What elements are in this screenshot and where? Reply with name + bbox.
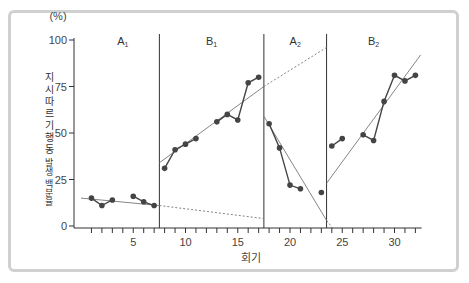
data-line-B1	[165, 139, 196, 169]
x-tick-label: 15	[232, 236, 244, 248]
data-line-B2	[363, 75, 415, 140]
data-point	[130, 193, 136, 199]
y-tick-label: 75	[55, 81, 67, 93]
x-tick-label: 30	[388, 236, 400, 248]
x-axis-label: 회기	[241, 252, 261, 264]
trend-line-B1-projection	[264, 47, 327, 86]
y-tick-label: 100	[49, 34, 67, 46]
data-line-A2	[269, 124, 300, 189]
trend-line-B2	[327, 55, 421, 183]
data-point	[371, 138, 377, 144]
data-point	[225, 112, 231, 118]
data-point	[151, 203, 157, 209]
data-point	[245, 80, 251, 86]
data-point	[413, 73, 419, 79]
chart-plot: 0255075100(%)51015202530회기A1B1A2B2	[0, 0, 469, 283]
data-point	[266, 121, 272, 127]
data-point	[319, 190, 325, 196]
data-point	[193, 136, 199, 142]
data-point	[99, 203, 105, 209]
data-line-B1	[217, 77, 259, 122]
trend-line-A1-projection	[159, 206, 264, 219]
y-tick-label: 25	[55, 174, 67, 186]
x-tick-label: 5	[130, 236, 136, 248]
data-point	[277, 145, 283, 151]
data-point	[329, 143, 335, 149]
data-point	[214, 119, 220, 125]
data-point	[381, 99, 387, 105]
data-point	[141, 199, 147, 205]
y-unit-label: (%)	[49, 10, 66, 22]
phase-label-A2: A2	[290, 35, 301, 48]
phase-label-B1: B1	[206, 35, 217, 48]
data-point	[183, 141, 189, 147]
x-tick-label: 20	[284, 236, 296, 248]
data-point	[256, 74, 262, 80]
phase-label-B2: B2	[368, 35, 379, 48]
x-tick-label: 10	[179, 236, 191, 248]
data-point	[360, 132, 366, 138]
data-point	[339, 136, 345, 142]
data-point	[287, 182, 293, 188]
x-tick-label: 25	[336, 236, 348, 248]
y-tick-label: 50	[55, 127, 67, 139]
data-point	[162, 166, 168, 172]
data-point	[392, 73, 398, 79]
data-point	[235, 117, 241, 123]
data-point	[172, 147, 178, 153]
data-point	[402, 78, 408, 84]
phase-label-A1: A1	[117, 35, 128, 48]
data-point	[89, 195, 95, 201]
y-tick-label: 0	[61, 220, 67, 232]
data-point	[110, 197, 116, 203]
data-point	[298, 186, 304, 192]
